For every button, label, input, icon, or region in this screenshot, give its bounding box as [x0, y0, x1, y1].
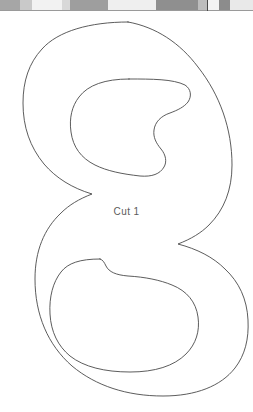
strip-vertical-divider [207, 0, 208, 11]
letter-s-upper-counter [70, 79, 190, 176]
cut-quantity-label: Cut 1 [0, 206, 253, 217]
scanned-edge-strip [0, 0, 253, 11]
letter-s-lower-counter [50, 259, 199, 372]
